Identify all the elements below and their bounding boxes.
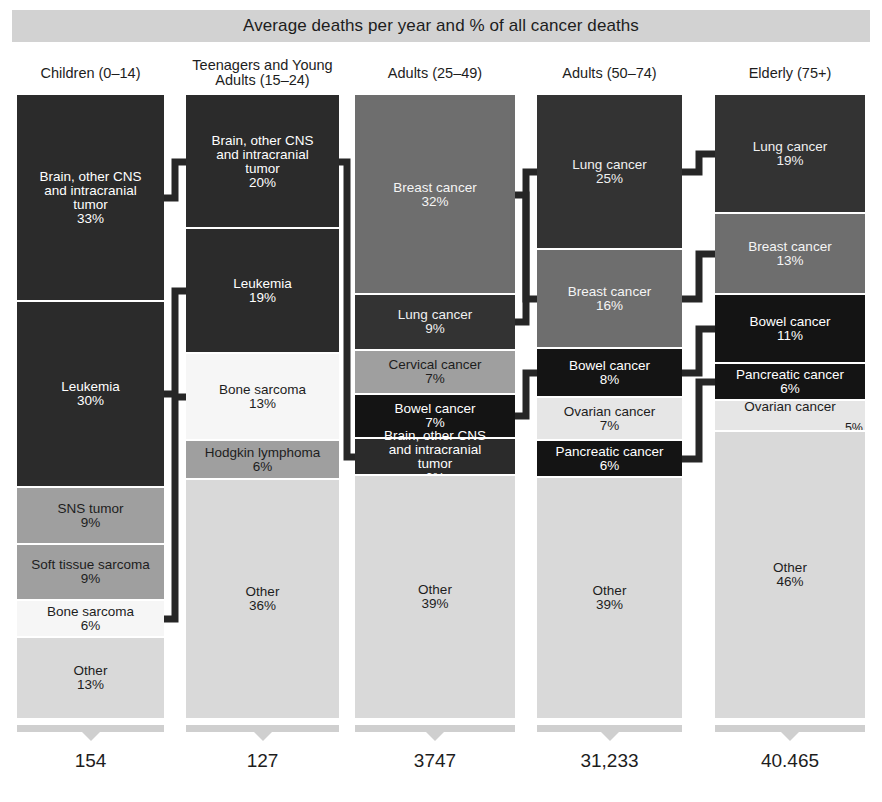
segment-bowel-cancer[interactable]: Bowel cancer11% bbox=[715, 294, 865, 363]
column-teenagers-and-young-adults-15-24: Teenagers and YoungAdults (15–24)Brain, … bbox=[186, 0, 339, 802]
total-bar bbox=[715, 725, 865, 732]
segment-breast-cancer[interactable]: Breast cancer16% bbox=[537, 249, 682, 348]
connector-breast-cancer bbox=[682, 254, 715, 299]
segment-bowel-cancer[interactable]: Bowel cancer7% bbox=[355, 394, 515, 438]
column-total-elderly-75: 40.465 bbox=[715, 750, 865, 772]
segment-other[interactable]: Other46% bbox=[715, 431, 865, 718]
segment-divider bbox=[355, 349, 515, 351]
segment-percent: 33% bbox=[77, 212, 104, 226]
segment-other[interactable]: Other39% bbox=[355, 475, 515, 718]
segment-label-line: Lung cancer bbox=[398, 308, 472, 322]
segment-other[interactable]: Other36% bbox=[186, 479, 339, 718]
segment-label-line: and intracranial bbox=[211, 148, 313, 162]
segment-divider bbox=[186, 352, 339, 354]
segment-stack: Brain, other CNSand intracranialtumor33%… bbox=[17, 95, 164, 718]
segment-other[interactable]: Other13% bbox=[17, 637, 164, 718]
segment-soft-tissue-sarcoma[interactable]: Soft tissue sarcoma9% bbox=[17, 544, 164, 600]
segment-percent: 6% bbox=[600, 459, 620, 473]
segment-label-line: and intracranial bbox=[384, 443, 486, 457]
segment-label-line: Breast cancer bbox=[568, 285, 651, 299]
segment-label-line: SNS tumor bbox=[57, 502, 123, 516]
segment-label-line: Bowel cancer bbox=[569, 359, 650, 373]
segment-label: Brain, other CNSand intracranialtumor bbox=[39, 170, 141, 212]
column-header-elderly-75: Elderly (75+) bbox=[715, 66, 865, 81]
segment-lung-cancer[interactable]: Lung cancer19% bbox=[715, 95, 865, 213]
segment-divider bbox=[715, 293, 865, 295]
segment-leukemia[interactable]: Leukemia19% bbox=[186, 228, 339, 353]
column-header-children-0-14: Children (0–14) bbox=[17, 66, 164, 81]
connector-lung-cancer bbox=[515, 172, 537, 322]
segment-label: Pancreatic cancer bbox=[555, 445, 663, 459]
total-bar bbox=[17, 725, 164, 732]
segment-percent: 25% bbox=[596, 172, 623, 186]
segment-label-line: Lung cancer bbox=[753, 140, 827, 154]
segment-breast-cancer[interactable]: Breast cancer32% bbox=[355, 95, 515, 294]
segment-brain-other-cns-and-intracranial-tumor[interactable]: Brain, other CNSand intracranialtumor20% bbox=[186, 95, 339, 228]
segment-percent: 7% bbox=[600, 419, 620, 433]
segment-label: Bone sarcoma bbox=[47, 605, 134, 619]
segment-label-line: Other bbox=[773, 561, 807, 575]
segment-breast-cancer[interactable]: Breast cancer13% bbox=[715, 213, 865, 294]
segment-bone-sarcoma[interactable]: Bone sarcoma6% bbox=[17, 600, 164, 637]
segment-cervical-cancer[interactable]: Cervical cancer7% bbox=[355, 350, 515, 394]
segment-label: Hodgkin lymphoma bbox=[205, 446, 321, 460]
segment-label-line: Ovarian cancer bbox=[564, 405, 656, 419]
segment-percent: 36% bbox=[249, 599, 276, 613]
column-adults-50-74: Adults (50–74)Lung cancer25%Breast cance… bbox=[537, 0, 682, 802]
segment-label-line: tumor bbox=[384, 457, 486, 471]
segment-percent: 9% bbox=[81, 572, 101, 586]
segment-label: Other bbox=[246, 585, 280, 599]
segment-bowel-cancer[interactable]: Bowel cancer8% bbox=[537, 348, 682, 397]
segment-label-line: Soft tissue sarcoma bbox=[31, 558, 150, 572]
column-children-0-14: Children (0–14)Brain, other CNSand intra… bbox=[17, 0, 164, 802]
segment-divider bbox=[355, 474, 515, 476]
segment-percent: 19% bbox=[776, 154, 803, 168]
total-bar bbox=[355, 725, 515, 732]
segment-label: Breast cancer bbox=[393, 181, 476, 195]
segment-label-line: Breast cancer bbox=[748, 240, 831, 254]
segment-label: Bowel cancer bbox=[749, 315, 830, 329]
segment-percent: 46% bbox=[776, 575, 803, 589]
segment-lung-cancer[interactable]: Lung cancer25% bbox=[537, 95, 682, 249]
segment-stack: Breast cancer32%Lung cancer9%Cervical ca… bbox=[355, 95, 515, 718]
segment-percent: 30% bbox=[77, 394, 104, 408]
connector-brain-other-cns-and-intracranial-tumor bbox=[164, 162, 186, 198]
segment-divider bbox=[17, 636, 164, 638]
segment-label-line: Lung cancer bbox=[572, 158, 646, 172]
segment-percent: 6% bbox=[780, 382, 800, 396]
segment-divider bbox=[537, 439, 682, 441]
segment-divider bbox=[17, 599, 164, 601]
segment-ovarian-cancer[interactable]: Ovarian cancer7% bbox=[537, 397, 682, 440]
segment-percent: 20% bbox=[249, 176, 276, 190]
segment-divider bbox=[355, 293, 515, 295]
segment-label-line: Bowel cancer bbox=[394, 402, 475, 416]
column-header-line: Adults (50–74) bbox=[537, 66, 682, 81]
segment-divider bbox=[355, 437, 515, 439]
segment-brain-other-cns-and-intracranial-tumor[interactable]: Brain, other CNSand intracranialtumor6% bbox=[355, 438, 515, 475]
segment-divider bbox=[715, 430, 865, 432]
column-header-adults-50-74: Adults (50–74) bbox=[537, 66, 682, 81]
column-adults-25-49: Adults (25–49)Breast cancer32%Lung cance… bbox=[355, 0, 515, 802]
segment-other[interactable]: Other39% bbox=[537, 477, 682, 718]
segment-leukemia[interactable]: Leukemia30% bbox=[17, 301, 164, 487]
segment-percent: 13% bbox=[776, 254, 803, 268]
segment-label: Lung cancer bbox=[398, 308, 472, 322]
segment-lung-cancer[interactable]: Lung cancer9% bbox=[355, 294, 515, 350]
segment-bone-sarcoma[interactable]: Bone sarcoma13% bbox=[186, 353, 339, 440]
segment-pancreatic-cancer[interactable]: Pancreatic cancer6% bbox=[537, 440, 682, 477]
segment-brain-other-cns-and-intracranial-tumor[interactable]: Brain, other CNSand intracranialtumor33% bbox=[17, 95, 164, 301]
column-total-teenagers-and-young-adults-15-24: 127 bbox=[186, 750, 339, 772]
segment-divider bbox=[537, 248, 682, 250]
segment-label: Bowel cancer bbox=[394, 402, 475, 416]
segment-percent: 7% bbox=[425, 416, 445, 430]
segment-pancreatic-cancer[interactable]: Pancreatic cancer6% bbox=[715, 363, 865, 400]
segment-label: Breast cancer bbox=[748, 240, 831, 254]
segment-stack: Lung cancer19%Breast cancer13%Bowel canc… bbox=[715, 95, 865, 718]
segment-ovarian-cancer[interactable]: Ovarian cancer5% bbox=[715, 400, 865, 431]
connector-breast-cancer bbox=[515, 195, 537, 299]
segment-sns-tumor[interactable]: SNS tumor9% bbox=[17, 487, 164, 544]
segment-label-line: Breast cancer bbox=[393, 181, 476, 195]
segment-hodgkin-lymphoma[interactable]: Hodgkin lymphoma6% bbox=[186, 440, 339, 479]
segment-divider bbox=[715, 399, 865, 401]
segment-percent: 11% bbox=[777, 329, 803, 343]
